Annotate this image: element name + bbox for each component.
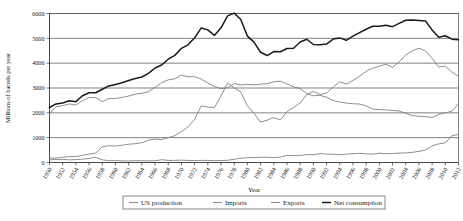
y-tick-label: 6000	[32, 10, 44, 17]
x-tick-label: 1954	[67, 166, 79, 180]
x-tick-label: 1992	[318, 166, 330, 180]
y-axis-label: Millions of barrels per year	[4, 52, 11, 123]
series-line-imports	[50, 48, 459, 158]
y-tick-label: 0	[41, 159, 44, 166]
x-tick-label: 1970	[173, 166, 185, 180]
x-tick-label: 1986	[278, 166, 290, 180]
x-tick-label: 1990	[305, 166, 317, 180]
x-tick-label: 1968	[159, 166, 171, 180]
series-layer	[50, 13, 459, 161]
x-tick-label: 1976	[212, 166, 224, 180]
y-tick-label: 5000	[32, 35, 44, 42]
x-tick-label: 1972	[186, 166, 198, 180]
chart-figure: 0100020003000400050006000 19501952195419…	[0, 0, 463, 221]
x-tick-label: 1958	[93, 166, 105, 180]
legend-label-imports: Imports	[225, 199, 247, 207]
x-tick-label: 2008	[423, 166, 435, 180]
y-tick-label: 4000	[32, 59, 44, 66]
y-tick-label: 3000	[32, 84, 44, 91]
x-tick-label: 1950	[41, 166, 53, 180]
x-tick-label: 1998	[357, 166, 369, 180]
x-tick-label: 2010	[437, 166, 449, 180]
x-tick-label: 2000	[371, 166, 383, 180]
legend-label-exports: Exports	[283, 199, 305, 207]
y-tick-label: 2000	[32, 109, 44, 116]
chart-legend: US productionImportsExportsNet consumpti…	[123, 196, 385, 209]
x-tick-label: 1962	[120, 166, 132, 180]
x-tick-label: 1960	[107, 166, 119, 180]
x-tick-label: 2004	[397, 166, 409, 180]
x-tick-label: 2012	[450, 166, 462, 180]
legend-label-net-consumption: Net consumption	[334, 199, 383, 207]
legend-label-us-production: US production	[141, 199, 183, 207]
x-tick-label: 1982	[252, 166, 264, 180]
x-tick-label: 1978	[225, 166, 237, 180]
x-tick-label: 1984	[265, 166, 277, 180]
x-tick-label: 1974	[199, 166, 211, 180]
x-tick-label: 2002	[384, 166, 396, 180]
x-tick-label: 1952	[54, 166, 66, 180]
x-tick-label: 1994	[331, 166, 343, 180]
x-tick-label: 1964	[133, 166, 145, 180]
gridlines	[50, 14, 459, 138]
x-tick-label: 1966	[146, 166, 158, 180]
x-tick-label: 1980	[239, 166, 251, 180]
series-line-exports	[50, 134, 459, 161]
series-line-us-production	[50, 75, 459, 117]
y-tick-labels: 0100020003000400050006000	[32, 10, 44, 166]
series-line-net-consumption	[50, 13, 459, 107]
x-tick-label: 1996	[344, 166, 356, 180]
x-axis-label: Year	[248, 186, 261, 193]
x-tick-label: 1956	[80, 166, 92, 180]
x-tick-label: 2006	[410, 166, 422, 180]
line-chart: 0100020003000400050006000 19501952195419…	[0, 0, 463, 221]
x-tick-labels: 1950195219541956195819601962196419661968…	[41, 166, 462, 180]
y-tick-label: 1000	[32, 134, 44, 141]
x-tick-label: 1988	[291, 166, 303, 180]
